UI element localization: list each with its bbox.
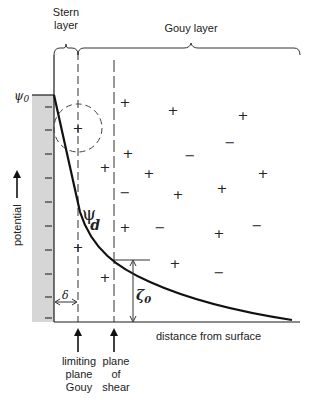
plus-ion: +: [123, 146, 134, 161]
double-layer-diagram: Stern layer Gouy layer ψ0 ψd potential d…: [0, 0, 315, 400]
shear-plane-label-3: shear: [102, 381, 130, 393]
zeta-label: ζ0: [136, 287, 151, 305]
psi0-label: ψ0: [14, 89, 29, 104]
minus-ion: −: [120, 185, 131, 200]
delta-label: δ: [62, 289, 69, 302]
stern-label-2: layer: [54, 19, 78, 31]
plus-ion: +: [144, 166, 155, 181]
plus-ion: +: [173, 187, 184, 202]
shear-plane-label-2: of: [111, 368, 121, 380]
y-axis-label: potential: [11, 204, 23, 246]
plus-ion: +: [238, 108, 249, 123]
plus-ion: +: [73, 240, 84, 255]
plus-ion: +: [120, 95, 131, 110]
minus-ion: −: [252, 218, 263, 233]
minus-ion: −: [214, 265, 225, 280]
plus-ion: +: [170, 256, 181, 271]
limiting-plane-label-3: Gouy: [66, 381, 93, 393]
minus-ion: −: [225, 135, 236, 150]
plus-ion: +: [214, 226, 225, 241]
gouy-brace: [78, 43, 300, 55]
plus-ion: +: [168, 103, 179, 118]
charged-surface: [32, 95, 54, 322]
plus-ion: +: [217, 181, 228, 196]
gouy-label: Gouy layer: [164, 22, 218, 34]
stern-brace: [54, 44, 78, 55]
shear-plane-label-1: plane: [103, 355, 130, 367]
plus-ion: +: [258, 166, 269, 181]
limiting-plane-label-1: limiting: [62, 355, 96, 367]
minus-ion: −: [185, 148, 196, 163]
plus-ion: +: [73, 121, 84, 136]
plus-ion: +: [100, 160, 111, 175]
stern-label-1: Stern: [53, 6, 79, 18]
limiting-plane-label-2: plane: [66, 368, 93, 380]
x-axis-label: distance from surface: [156, 330, 261, 342]
plus-ion: +: [100, 270, 111, 285]
psid-label: ψd: [82, 203, 100, 233]
minus-ion: −: [155, 220, 166, 235]
plus-ion: +: [120, 220, 131, 235]
